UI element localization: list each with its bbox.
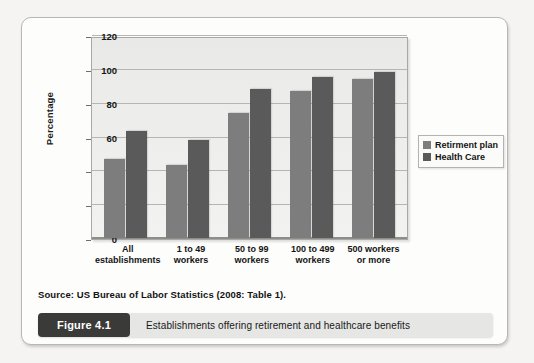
y-axis-label: Percentage bbox=[44, 74, 55, 164]
figure-caption-text: Establishments offering retirement and h… bbox=[146, 313, 410, 337]
bar-health bbox=[126, 131, 147, 238]
chart-legend: Retirment plan Health Care bbox=[418, 135, 504, 168]
legend-swatch-health bbox=[423, 153, 431, 161]
x-tick-label-line: establishments bbox=[95, 255, 161, 266]
bar-health bbox=[250, 89, 271, 238]
x-tick-label-line: workers bbox=[221, 255, 282, 266]
figure-card: Percentage 020406080100120 Allestablishm… bbox=[21, 17, 508, 345]
x-tick-label: 1 to 49workers bbox=[161, 244, 222, 266]
x-tick-label: 500 workersor more bbox=[343, 244, 404, 266]
x-tick-label-line: workers bbox=[161, 255, 222, 266]
gridline bbox=[92, 35, 407, 36]
bar-retirement bbox=[228, 113, 249, 238]
bar-groups bbox=[91, 37, 408, 240]
source-note: Source: US Bureau of Labor Statistics (2… bbox=[38, 289, 286, 300]
bar-health bbox=[312, 77, 333, 238]
legend-item-series2: Health Care bbox=[423, 151, 498, 163]
x-tick-label-line: or more bbox=[343, 255, 404, 266]
x-tick-label: 50 to 99workers bbox=[221, 244, 282, 266]
bar-group bbox=[280, 37, 342, 238]
bar-retirement bbox=[104, 159, 125, 239]
x-tick-label: Allestablishments bbox=[95, 244, 161, 266]
legend-swatch-retirement bbox=[423, 141, 431, 149]
x-axis-labels: Allestablishments1 to 49workers50 to 99w… bbox=[91, 244, 408, 266]
y-tick-mark bbox=[86, 240, 91, 241]
bar-retirement bbox=[290, 91, 311, 238]
bar-health bbox=[374, 72, 395, 238]
bar-group bbox=[157, 37, 219, 238]
figure-number-pill: Figure 4.1 bbox=[38, 313, 130, 337]
bar-group bbox=[219, 37, 281, 238]
figure-page: Percentage 020406080100120 Allestablishm… bbox=[0, 0, 534, 363]
chart-area: Percentage 020406080100120 Allestablishm… bbox=[22, 18, 509, 280]
x-tick-label-line: 500 workers bbox=[343, 244, 404, 255]
legend-label-retirement: Retirment plan bbox=[435, 139, 498, 151]
x-tick-label-line: 1 to 49 bbox=[161, 244, 222, 255]
bar-group bbox=[95, 37, 157, 238]
x-tick-label-line: 100 to 499 bbox=[282, 244, 343, 255]
bar-health bbox=[188, 140, 209, 238]
x-tick-label-line: All bbox=[95, 244, 161, 255]
bar-retirement bbox=[166, 165, 187, 238]
x-tick-label-line: 50 to 99 bbox=[221, 244, 282, 255]
bar-group bbox=[342, 37, 404, 238]
legend-label-health: Health Care bbox=[435, 151, 485, 163]
x-tick-label: 100 to 499workers bbox=[282, 244, 343, 266]
x-tick-label-line: workers bbox=[282, 255, 343, 266]
figure-caption-bar: Figure 4.1 Establishments offering retir… bbox=[38, 313, 493, 337]
bar-retirement bbox=[352, 79, 373, 238]
legend-item-series1: Retirment plan bbox=[423, 139, 498, 151]
